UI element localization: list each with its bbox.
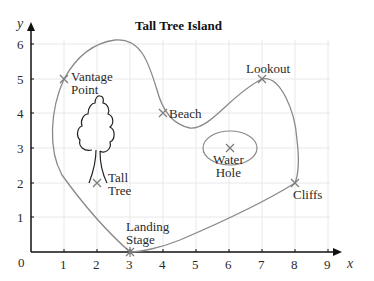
label-cliffs: Cliffs xyxy=(293,188,322,201)
label-landing-stage: Landing Stage xyxy=(126,220,169,246)
y-tick-4: 4 xyxy=(17,107,24,120)
y-axis-arrow-icon xyxy=(27,22,35,31)
map-canvas xyxy=(0,0,374,281)
y-tick-6: 6 xyxy=(17,38,24,51)
x-tick-3: 3 xyxy=(126,258,133,271)
x-tick-1: 1 xyxy=(60,258,67,271)
y-tick-2: 2 xyxy=(17,177,24,190)
x-tick-5: 5 xyxy=(192,258,199,271)
x-tick-9: 9 xyxy=(324,258,331,271)
y-axis-label: y xyxy=(17,16,23,32)
label-lookout: Lookout xyxy=(246,62,290,75)
y-tick-3: 3 xyxy=(17,142,24,155)
label-vantage-point: Vantage Point xyxy=(71,70,113,96)
map-title: Tall Tree Island xyxy=(135,18,222,34)
y-tick-5: 5 xyxy=(17,73,24,86)
x-axis-label: x xyxy=(347,256,353,272)
x-tick-8: 8 xyxy=(291,258,298,271)
x-tick-2: 2 xyxy=(93,258,100,271)
y-tick-1: 1 xyxy=(17,211,24,224)
origin-label: 0 xyxy=(18,256,25,269)
x-tick-4: 4 xyxy=(159,258,166,271)
label-water-hole: Water Hole xyxy=(213,153,244,179)
label-beach: Beach xyxy=(169,107,201,120)
label-tall-tree: Tall Tree xyxy=(108,171,131,197)
x-axis-arrow-icon xyxy=(333,248,342,256)
tall-tree-island-map: Tall Tree Island y x 0 1 2 3 4 5 6 7 8 9… xyxy=(0,0,374,281)
place-markers xyxy=(60,75,299,257)
x-tick-7: 7 xyxy=(258,258,265,271)
x-tick-6: 6 xyxy=(225,258,232,271)
